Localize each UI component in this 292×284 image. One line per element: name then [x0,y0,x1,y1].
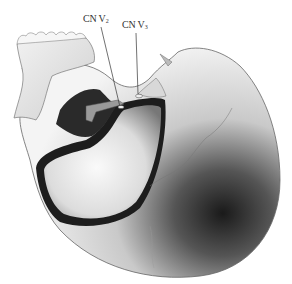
label-text: CN V [122,19,145,30]
label-subscript: 3 [145,24,148,30]
foramen-rotundum [118,105,124,108]
foramen-ovale [136,94,143,98]
label-cn-v3: CN V3 [122,19,147,30]
skull-illustration [0,0,292,284]
leader-line-cn-v3 [136,33,138,94]
label-cn-v2: CN V2 [83,13,108,24]
label-text: CN V [83,13,106,24]
label-subscript: 2 [106,18,109,24]
